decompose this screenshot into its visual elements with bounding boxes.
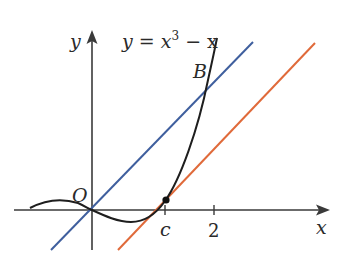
point-b-label: B <box>192 60 207 82</box>
tangent-line <box>118 43 315 250</box>
cubic-graph-diagram: y = x3 − x y x B O c 2 <box>0 0 349 270</box>
y-axis-label: y <box>69 30 81 52</box>
tick-c-label: c <box>160 218 171 240</box>
origin-label: O <box>72 184 88 206</box>
tangent-point <box>162 196 169 203</box>
line-y-equals-x <box>51 42 253 250</box>
equation-label: y = x3 − x <box>121 29 218 52</box>
tick-2-label: 2 <box>208 220 219 241</box>
cubic-curve <box>30 38 217 222</box>
x-axis-label: x <box>316 216 327 238</box>
